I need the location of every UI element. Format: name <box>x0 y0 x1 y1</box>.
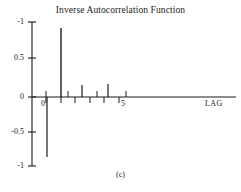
y-tick-label-top: -1 <box>6 17 24 26</box>
figure-caption: (c) <box>0 170 241 179</box>
y-tick-label-half: 0.5 <box>4 53 24 62</box>
figure-panel: Inverse Autocorrelation Function <box>0 0 241 192</box>
y-tick-label-neg-half: -0.5 <box>2 127 24 136</box>
x-tick-label-5: 5 <box>121 99 125 108</box>
x-tick-label-0: 0 <box>41 99 45 108</box>
x-axis-label: LAG <box>205 99 223 108</box>
inverse-autocorrelation-plot <box>0 0 241 192</box>
y-tick-label-neg-one: -1 <box>6 161 24 170</box>
y-tick-label-zero: 0 <box>6 92 24 101</box>
